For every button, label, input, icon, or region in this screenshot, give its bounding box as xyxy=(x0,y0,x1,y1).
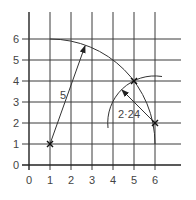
horizontal-grid-lines xyxy=(22,39,181,165)
radius-vector-large xyxy=(50,46,85,144)
label-radius-large: 5 xyxy=(60,89,66,101)
svg-text:2: 2 xyxy=(13,117,19,129)
svg-text:1: 1 xyxy=(47,174,53,186)
y-axis-ticks: 0 1 2 3 4 5 6 xyxy=(13,33,19,171)
svg-text:3: 3 xyxy=(13,96,19,108)
coordinate-grid-diagram: 5 2·24 0 1 2 3 4 5 6 0 1 2 3 4 5 6 xyxy=(0,0,196,200)
svg-text:5: 5 xyxy=(13,54,19,66)
svg-text:6: 6 xyxy=(152,174,158,186)
svg-text:4: 4 xyxy=(110,174,116,186)
svg-text:0: 0 xyxy=(13,159,19,171)
svg-text:5: 5 xyxy=(131,174,137,186)
svg-text:4: 4 xyxy=(13,75,19,87)
svg-text:2: 2 xyxy=(68,174,74,186)
svg-text:0: 0 xyxy=(26,174,32,186)
svg-text:1: 1 xyxy=(13,138,19,150)
x-axis-ticks: 0 1 2 3 4 5 6 xyxy=(26,174,158,186)
svg-text:3: 3 xyxy=(89,174,95,186)
label-radius-small: 2·24 xyxy=(118,108,140,120)
svg-text:6: 6 xyxy=(13,33,19,45)
